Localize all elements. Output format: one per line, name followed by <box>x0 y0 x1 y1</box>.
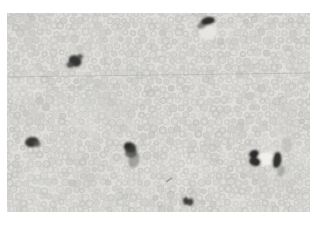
right-edge-faint-cell <box>282 137 293 153</box>
micrograph-figure <box>7 13 310 212</box>
screenshot-canvas <box>0 0 318 226</box>
micrograph-image <box>7 13 310 212</box>
